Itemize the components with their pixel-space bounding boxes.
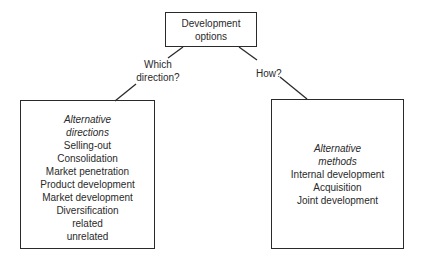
edge-label-which-direction: Which direction? <box>128 58 188 84</box>
list-item: Joint development <box>297 194 378 207</box>
edge-label-how: How? <box>256 67 282 80</box>
right-heading-1: Alternative <box>314 142 361 155</box>
root-node: Development options <box>165 12 257 47</box>
alternative-methods-node: Alternative methods Internal development… <box>271 99 404 249</box>
list-item: Market penetration <box>46 165 129 178</box>
list-item: Selling-out <box>64 139 111 152</box>
list-item: Product development <box>40 178 135 191</box>
left-heading-1: Alternative <box>64 113 111 126</box>
list-item: unrelated <box>67 230 109 243</box>
alternative-directions-node: Alternative directions Selling-out Conso… <box>20 100 155 249</box>
list-item: Market development <box>42 191 133 204</box>
root-line-2: options <box>195 30 227 43</box>
list-item: Acquisition <box>313 181 361 194</box>
edge-label-line-1: Which <box>128 58 188 71</box>
root-line-1: Development <box>182 17 241 30</box>
list-item: Diversification <box>56 204 118 217</box>
edge-label-line-2: direction? <box>128 71 188 84</box>
list-item: related <box>72 217 103 230</box>
left-heading-2: directions <box>66 126 109 139</box>
right-heading-2: methods <box>318 155 356 168</box>
list-item: Internal development <box>291 168 384 181</box>
list-item: Consolidation <box>57 152 118 165</box>
